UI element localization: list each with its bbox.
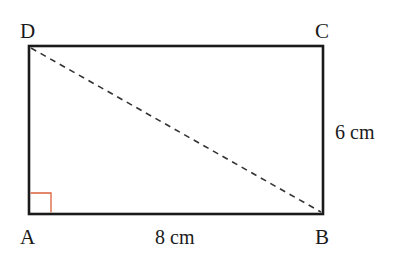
height-dimension-label: 6 cm xyxy=(335,121,375,143)
right-angle-marker xyxy=(31,193,52,213)
vertex-label-d: D xyxy=(20,19,35,43)
diagram-canvas: D C A B 8 cm 6 cm xyxy=(0,0,398,253)
vertex-label-a: A xyxy=(20,225,36,249)
vertex-label-c: C xyxy=(315,19,329,43)
vertex-label-b: B xyxy=(315,225,329,249)
diagonal-db xyxy=(31,48,321,212)
width-dimension-label: 8 cm xyxy=(155,226,195,248)
